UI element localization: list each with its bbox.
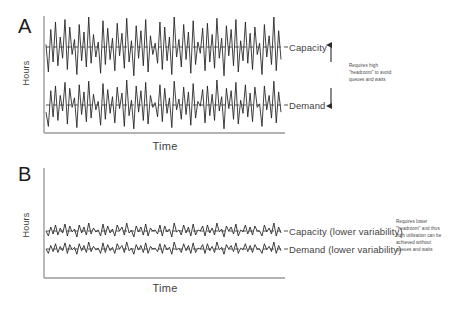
headroom-arrows-a <box>322 40 340 112</box>
x-axis-label-b: Time <box>44 282 286 294</box>
x-axis-label-a: Time <box>44 140 286 152</box>
panel-b: B Hours Capacity (lower variability) Dem… <box>0 160 475 311</box>
series-label-demand-b: Demand (lower variability) <box>289 244 401 255</box>
series-label-capacity-b: Capacity (lower variability) <box>289 226 403 237</box>
series-label-demand-a: Demand <box>289 100 326 111</box>
annotation-text-b: Requires lower "headroom" and thus high … <box>396 218 466 254</box>
figure-container: A Hours Capacity Demand Requires high "h… <box>0 0 475 311</box>
panel-a: A Hours Capacity Demand Requires high "h… <box>0 0 475 160</box>
annotation-text-a: Requires high "headroom" to avoid queues… <box>349 62 411 83</box>
